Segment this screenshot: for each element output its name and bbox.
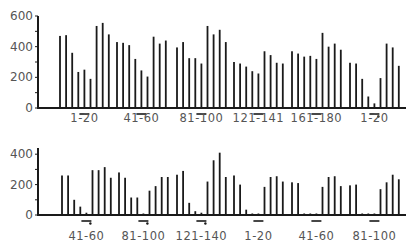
bar bbox=[374, 103, 376, 108]
bar bbox=[386, 44, 388, 108]
group-label: 1-20 bbox=[360, 111, 388, 125]
bar bbox=[65, 35, 67, 108]
group-marker-dot bbox=[89, 222, 91, 224]
bar bbox=[176, 47, 178, 108]
bar-group: 121-141 bbox=[233, 51, 285, 125]
bar bbox=[67, 175, 69, 215]
bar bbox=[297, 183, 299, 215]
bar bbox=[194, 58, 196, 108]
bar bbox=[349, 185, 351, 215]
chart-panel-top: 02004006001-2041-6081-100121-141161-1801… bbox=[10, 9, 406, 125]
bar bbox=[340, 186, 342, 215]
group-marker-dot bbox=[204, 222, 206, 224]
bar bbox=[355, 64, 357, 108]
bar bbox=[380, 78, 382, 108]
bar bbox=[264, 187, 266, 215]
bar bbox=[176, 175, 178, 215]
bar bbox=[225, 42, 227, 108]
bar-group: 1-20 bbox=[233, 175, 284, 243]
bar bbox=[219, 153, 221, 215]
bar bbox=[86, 213, 88, 215]
bar-group: 161-180 bbox=[291, 33, 343, 125]
bar-group: 41-60 bbox=[291, 176, 342, 243]
bar bbox=[188, 203, 190, 215]
bar bbox=[128, 45, 130, 108]
bar-group: 41-60 bbox=[61, 167, 112, 243]
group-label: 1-20 bbox=[244, 229, 272, 243]
bar bbox=[147, 77, 149, 108]
bar bbox=[322, 33, 324, 108]
bar bbox=[245, 210, 247, 215]
bar bbox=[201, 64, 203, 108]
bar bbox=[143, 213, 145, 215]
bar bbox=[355, 185, 357, 215]
bar bbox=[282, 182, 284, 215]
bar bbox=[239, 64, 241, 108]
group-label: 81-100 bbox=[122, 229, 166, 243]
bar-group: 81-100 bbox=[176, 26, 227, 125]
bar bbox=[134, 59, 136, 108]
group-label: 81-100 bbox=[180, 111, 224, 125]
bar bbox=[153, 37, 155, 108]
group-label: 121-141 bbox=[233, 111, 285, 125]
bar bbox=[79, 207, 81, 215]
bar bbox=[77, 72, 79, 108]
group-label: 41-60 bbox=[123, 111, 159, 125]
bar bbox=[98, 170, 100, 215]
y-tick-label: 0 bbox=[25, 101, 33, 115]
bar bbox=[71, 53, 73, 108]
bar bbox=[380, 189, 382, 215]
bar bbox=[90, 79, 92, 108]
bar bbox=[270, 177, 272, 215]
bar bbox=[233, 175, 235, 215]
bar bbox=[374, 213, 376, 215]
bar bbox=[108, 34, 110, 108]
bar bbox=[201, 213, 203, 215]
bar bbox=[207, 182, 209, 215]
y-tick-label: 400 bbox=[10, 40, 33, 54]
y-tick-label: 600 bbox=[10, 9, 33, 23]
bar-group: 1-20 bbox=[349, 44, 400, 125]
y-tick-label: 200 bbox=[10, 178, 33, 192]
bar bbox=[251, 71, 253, 108]
bar bbox=[309, 56, 311, 108]
bar bbox=[276, 63, 278, 108]
bar bbox=[219, 30, 221, 108]
group-marker-dot bbox=[146, 222, 148, 224]
bar bbox=[182, 171, 184, 215]
bar bbox=[155, 186, 157, 215]
bar bbox=[334, 176, 336, 215]
bar bbox=[270, 55, 272, 108]
bar bbox=[182, 42, 184, 108]
bar bbox=[165, 41, 167, 108]
bar bbox=[61, 175, 63, 215]
bar bbox=[264, 51, 266, 108]
group-label: 81-100 bbox=[353, 229, 397, 243]
bar bbox=[159, 44, 161, 108]
bar bbox=[361, 79, 363, 108]
bar bbox=[349, 63, 351, 108]
bar bbox=[258, 74, 260, 109]
bar bbox=[309, 213, 311, 215]
bar bbox=[96, 26, 98, 108]
bar bbox=[297, 54, 299, 108]
bar bbox=[361, 213, 363, 215]
bar bbox=[194, 211, 196, 215]
bar bbox=[245, 67, 247, 108]
bar bbox=[130, 198, 132, 215]
group-label: 41-60 bbox=[298, 229, 334, 243]
bar bbox=[213, 34, 215, 108]
bar bbox=[104, 167, 106, 215]
bar-group: 121-140 bbox=[176, 153, 228, 243]
y-tick-label: 0 bbox=[25, 208, 33, 222]
bar bbox=[122, 43, 124, 108]
bar bbox=[251, 213, 253, 215]
bar bbox=[239, 185, 241, 215]
bar bbox=[124, 178, 126, 215]
bar bbox=[276, 176, 278, 215]
bar bbox=[110, 178, 112, 215]
bar bbox=[102, 23, 104, 108]
bar bbox=[207, 26, 209, 108]
bar bbox=[141, 70, 143, 108]
bar bbox=[392, 47, 394, 108]
